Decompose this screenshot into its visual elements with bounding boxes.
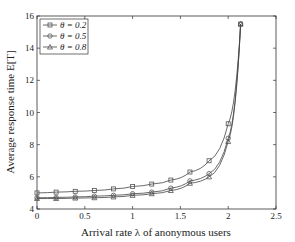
x-axis-label: Arrival rate λ of anonymous users bbox=[81, 226, 231, 238]
legend-entry: θ = 0.5 bbox=[60, 31, 87, 41]
x-tick-label: 1 bbox=[130, 211, 135, 221]
x-tick-label: 2.5 bbox=[270, 211, 282, 221]
y-axis-label: Average response time E[T] bbox=[4, 50, 16, 174]
y-tick-label: 12 bbox=[25, 75, 34, 85]
legend-entry: θ = 0.8 bbox=[60, 42, 87, 52]
line-chart: 00.511.522.546810121416 Arrival rate λ o… bbox=[0, 0, 295, 242]
legend: θ = 0.2θ = 0.5θ = 0.8 bbox=[40, 19, 88, 54]
x-tick-label: 2 bbox=[226, 211, 231, 221]
y-tick-label: 14 bbox=[25, 43, 35, 53]
y-tick-label: 6 bbox=[30, 172, 35, 182]
x-tick-label: 0.5 bbox=[79, 211, 91, 221]
y-tick-label: 8 bbox=[30, 140, 35, 150]
y-tick-label: 10 bbox=[25, 108, 35, 118]
y-tick-label: 4 bbox=[30, 204, 35, 214]
legend-entry: θ = 0.2 bbox=[60, 20, 87, 30]
x-tick-label: 0 bbox=[35, 211, 40, 221]
y-tick-label: 16 bbox=[25, 11, 35, 21]
x-tick-label: 1.5 bbox=[175, 211, 187, 221]
